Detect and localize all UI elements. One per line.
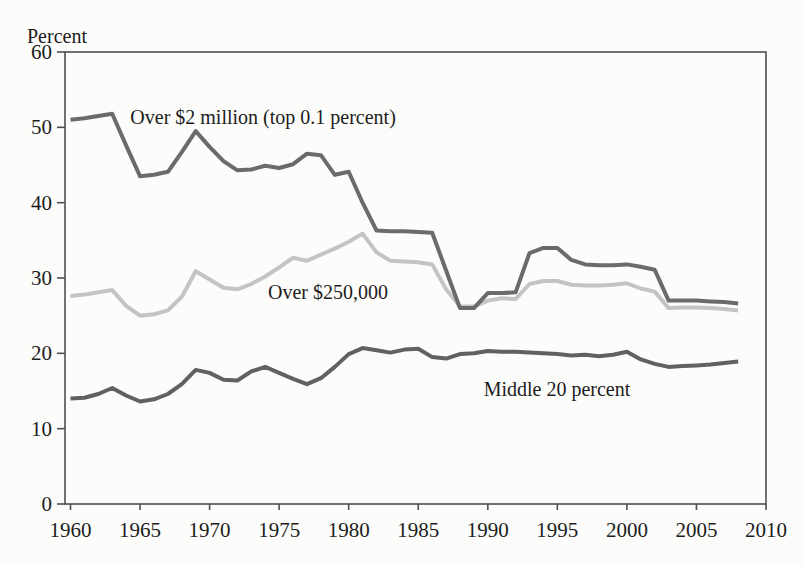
y-tick-label: 50 bbox=[31, 115, 52, 139]
x-tick-label: 1970 bbox=[189, 518, 231, 542]
series-label-over-250-000: Over $250,000 bbox=[268, 281, 388, 303]
x-tick-label: 1995 bbox=[536, 518, 578, 542]
y-tick-label: 10 bbox=[31, 417, 52, 441]
y-tick-label: 30 bbox=[31, 266, 52, 290]
x-tick-label: 1965 bbox=[119, 518, 161, 542]
series-lines bbox=[71, 114, 739, 402]
x-tick-label: 2000 bbox=[606, 518, 648, 542]
series-label-over-2-million-top-0-1-percent: Over $2 million (top 0.1 percent) bbox=[130, 106, 396, 129]
x-tick-label: 2010 bbox=[745, 518, 787, 542]
series-line-over-2-million-top-0-1-percent bbox=[71, 114, 739, 308]
x-tick-label: 1975 bbox=[258, 518, 300, 542]
x-tick-label: 1980 bbox=[328, 518, 370, 542]
y-tick-label: 60 bbox=[31, 40, 52, 64]
x-tick-label: 1960 bbox=[50, 518, 92, 542]
scanned-line-chart-figure: Percent 0102030405060 196019651970197519… bbox=[0, 0, 804, 566]
tax-rate-line-chart: Percent 0102030405060 196019651970197519… bbox=[0, 0, 804, 566]
series-line-middle-20-percent bbox=[71, 348, 739, 401]
y-tick-label: 40 bbox=[31, 191, 52, 215]
series-label-middle-20-percent: Middle 20 percent bbox=[484, 378, 631, 401]
y-ticks: 0102030405060 bbox=[31, 40, 65, 516]
x-tick-label: 2005 bbox=[675, 518, 717, 542]
x-tick-label: 1990 bbox=[467, 518, 509, 542]
x-ticks: 1960196519701975198019851990199520002005… bbox=[50, 504, 788, 542]
y-tick-label: 0 bbox=[42, 492, 53, 516]
series-line-over-250-000 bbox=[71, 234, 739, 316]
x-tick-label: 1985 bbox=[397, 518, 439, 542]
y-tick-label: 20 bbox=[31, 341, 52, 365]
